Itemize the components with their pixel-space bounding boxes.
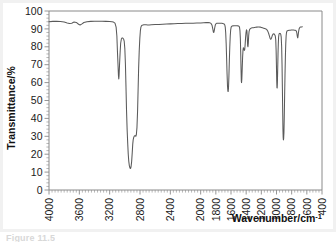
x-axis-title-main: Wavenumber/cm (232, 212, 316, 224)
x-tick-label: 3200 (103, 198, 115, 222)
y-tick-label: 60 (31, 76, 43, 88)
x-tick-label: 2000 (194, 198, 206, 222)
plot-area: Transmittance/% 0102030405060708090100 4… (4, 4, 332, 228)
y-tick-label: 70 (31, 58, 43, 70)
figure-caption: Figure 11.5 (6, 233, 55, 242)
y-tick-label: 90 (31, 23, 43, 35)
y-tick-label: 80 (31, 40, 43, 52)
y-tick-label: 0 (37, 184, 43, 196)
x-tick-label: 3600 (73, 198, 85, 222)
y-tick-label: 50 (31, 94, 43, 106)
y-tick-label: 10 (31, 166, 43, 178)
x-axis-title: Wavenumber/cm-1 (232, 212, 322, 225)
y-tick-label: 40 (31, 112, 43, 124)
x-tick-label: 4000 (43, 198, 55, 222)
spectrum-chart: Transmittance/% 0102030405060708090100 4… (4, 4, 332, 228)
x-tick-label: 1800 (210, 198, 222, 222)
y-tick-label: 100 (25, 5, 43, 17)
x-tick-label: 2800 (134, 198, 146, 222)
y-tick-label: 20 (31, 148, 43, 160)
y-axis-title: Transmittance/% (5, 66, 17, 150)
x-axis-title-superscript: -1 (315, 212, 322, 221)
y-tick-label: 30 (31, 130, 43, 142)
x-tick-label: 2400 (164, 198, 176, 222)
ir-spectrum-figure: Transmittance/% 0102030405060708090100 4… (0, 0, 336, 242)
